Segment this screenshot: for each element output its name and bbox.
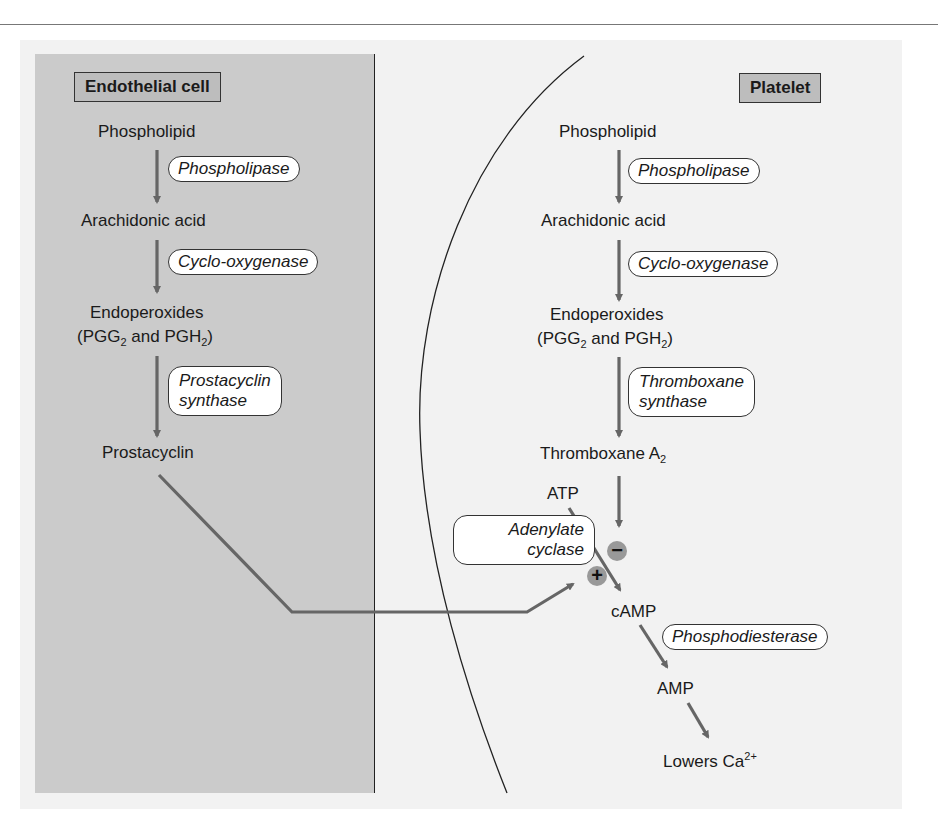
endo-phospholipid: Phospholipid xyxy=(98,122,195,142)
atp: ATP xyxy=(547,484,579,504)
amp: AMP xyxy=(657,679,694,699)
platelet-label: Platelet xyxy=(739,73,821,103)
inhibit-badge: − xyxy=(607,541,627,561)
thromboxane-synthase-enzyme: Thromboxanesynthase xyxy=(628,367,755,417)
lowers-calcium: Lowers Ca2+ xyxy=(663,746,757,772)
platelet-phospholipase-enzyme: Phospholipase xyxy=(628,158,760,184)
prostacyclin-synthase-enzyme: Prostacyclinsynthase xyxy=(168,366,282,416)
endo-cyclooxygenase-enzyme: Cyclo-oxygenase xyxy=(168,249,318,275)
endo-arachidonic-acid: Arachidonic acid xyxy=(81,211,206,231)
stimulate-badge: + xyxy=(587,566,607,586)
platelet-endoperoxides: Endoperoxides xyxy=(550,305,663,325)
endo-pgg-pgh: (PGG2 and PGH2) xyxy=(77,327,213,352)
endo-phospholipase-enzyme: Phospholipase xyxy=(168,156,300,182)
platelet-phospholipid: Phospholipid xyxy=(559,122,656,142)
platelet-cyclooxygenase-enzyme: Cyclo-oxygenase xyxy=(628,251,778,277)
thromboxane-a2: Thromboxane A2 xyxy=(540,444,666,469)
phosphodiesterase-enzyme: Phosphodiesterase xyxy=(662,624,828,650)
platelet-pgg-pgh: (PGG2 and PGH2) xyxy=(537,329,673,354)
camp: cAMP xyxy=(611,602,656,622)
endo-endoperoxides: Endoperoxides xyxy=(90,303,203,323)
platelet-arachidonic-acid: Arachidonic acid xyxy=(541,211,666,231)
endothelial-cell-label: Endothelial cell xyxy=(74,72,221,102)
endo-prostacyclin: Prostacyclin xyxy=(102,443,194,463)
platelet-membrane xyxy=(420,56,584,793)
adenylate-cyclase-enzyme: Adenylatecyclase xyxy=(453,515,595,565)
